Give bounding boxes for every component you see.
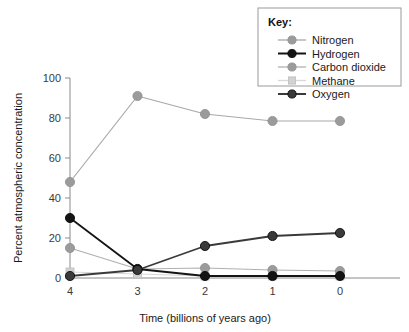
data-point-nitrogen-0[interactable]	[335, 116, 344, 125]
data-point-hydrogen-0[interactable]	[335, 271, 344, 280]
x-axis-title: Time (billions of years ago)	[139, 312, 271, 324]
data-point-carbon-dioxide-4[interactable]	[65, 243, 74, 252]
data-point-nitrogen-4[interactable]	[65, 177, 74, 186]
data-point-oxygen-0[interactable]	[335, 228, 344, 237]
y-tick-label: 100	[43, 72, 61, 84]
x-tick-label: 2	[202, 285, 208, 297]
y-axis-title: Percent atmospheric concentration	[12, 93, 24, 263]
data-point-hydrogen-2[interactable]	[200, 271, 209, 280]
data-point-nitrogen-1[interactable]	[268, 116, 277, 125]
x-tick-label: 3	[134, 285, 140, 297]
legend-label-carbon-dioxide: Carbon dioxide	[312, 61, 386, 73]
legend-label-hydrogen: Hydrogen	[312, 48, 360, 60]
data-point-oxygen-1[interactable]	[268, 231, 277, 240]
data-point-oxygen-3[interactable]	[133, 265, 142, 274]
data-point-hydrogen-4[interactable]	[65, 213, 74, 222]
atmospheric-composition-chart: 02040608010043210Time (billions of years…	[0, 0, 409, 332]
y-tick-label: 40	[49, 192, 61, 204]
data-point-nitrogen-2[interactable]	[200, 109, 209, 118]
legend-marker-oxygen	[288, 90, 296, 98]
data-point-hydrogen-1[interactable]	[268, 271, 277, 280]
series-line-nitrogen	[70, 96, 340, 182]
data-point-oxygen-2[interactable]	[200, 241, 209, 250]
legend-marker-methane	[288, 77, 295, 84]
legend-marker-hydrogen	[288, 49, 296, 57]
legend-label-oxygen: Oxygen	[312, 88, 350, 100]
legend-label-methane: Methane	[312, 75, 355, 87]
x-tick-label: 4	[67, 285, 73, 297]
data-point-oxygen-4[interactable]	[65, 271, 74, 280]
legend-marker-nitrogen	[288, 36, 296, 44]
legend-label-nitrogen: Nitrogen	[312, 34, 354, 46]
y-tick-label: 20	[49, 232, 61, 244]
data-point-nitrogen-3[interactable]	[133, 91, 142, 100]
legend-title: Key:	[268, 16, 292, 28]
y-tick-label: 60	[49, 152, 61, 164]
legend-marker-carbon-dioxide	[288, 63, 296, 71]
y-tick-label: 0	[55, 272, 61, 284]
chart-canvas: 02040608010043210Time (billions of years…	[0, 0, 409, 332]
y-tick-label: 80	[49, 112, 61, 124]
x-tick-label: 0	[337, 285, 343, 297]
x-tick-label: 1	[269, 285, 275, 297]
